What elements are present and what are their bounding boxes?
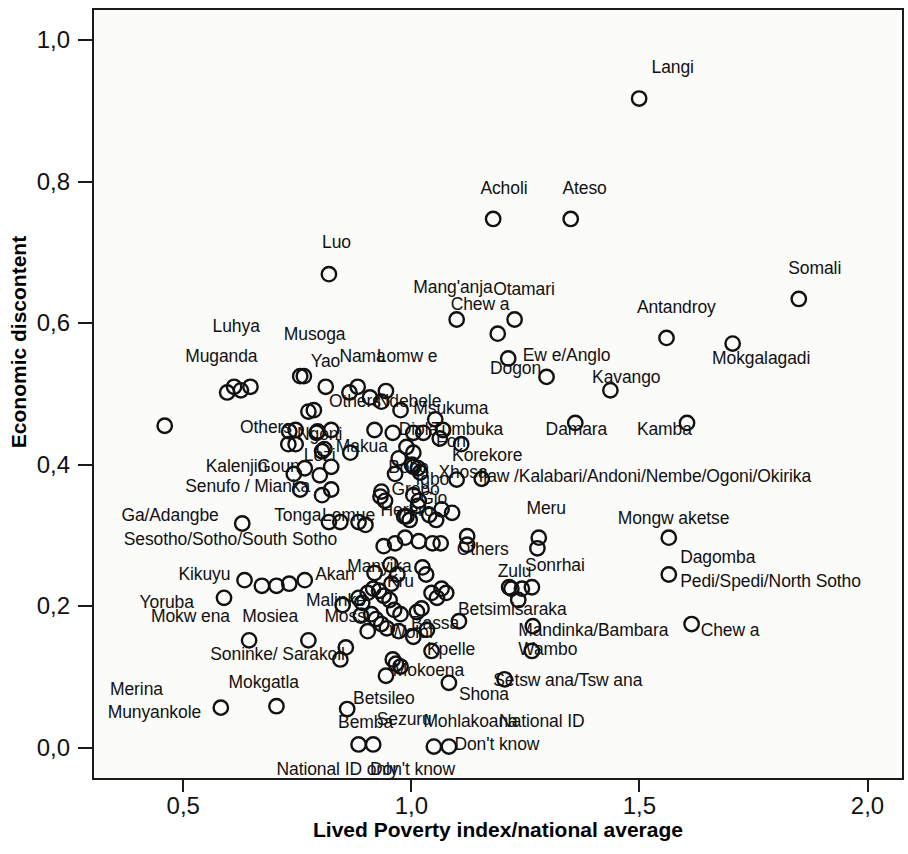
scatter-marker [486, 212, 500, 226]
scatter-marker [449, 312, 463, 326]
scatter-point-label: Senufo / Mianka [185, 478, 310, 496]
x-tick-label: 0,5 [148, 792, 218, 820]
scatter-point-label: Chew a [451, 296, 510, 314]
scatter-marker [322, 267, 336, 281]
scatter-point-label: Tonga [274, 507, 321, 525]
scatter-point-label: Mokgatla [229, 674, 299, 692]
scatter-marker [427, 739, 441, 753]
scatter-marker [351, 737, 365, 751]
scatter-point-label: Makua [336, 438, 388, 456]
scatter-point-label: Musoga [284, 326, 346, 344]
scatter-point-label: Yao [311, 353, 341, 371]
y-tick-mark [78, 39, 92, 41]
scatter-marker [361, 624, 375, 638]
y-axis-title-wrapper: Economic discontent [0, 0, 1, 1]
y-tick-label: 0,0 [8, 734, 70, 762]
scatter-point-label: Antandroy [637, 299, 716, 317]
scatter-marker [491, 326, 505, 340]
scatter-point-label: Langi [652, 59, 694, 77]
scatter-marker [564, 212, 578, 226]
x-tick-mark [410, 780, 412, 792]
y-tick-mark [78, 605, 92, 607]
y-axis-title: Economic discontent [7, 127, 31, 557]
chart-page: 0,00,20,40,60,81,0 Economic discontent L… [0, 0, 908, 854]
scatter-point-label: Soninke/ Sarakoll [210, 646, 345, 664]
scatter-point-label: Don't know [370, 761, 455, 779]
x-tick-label: 2,0 [833, 792, 903, 820]
x-tick-label: 1,0 [376, 792, 446, 820]
scatter-point-label: Meru [527, 500, 566, 518]
scatter-marker [412, 534, 426, 548]
scatter-point-label: Others [457, 541, 509, 559]
scatter-marker [313, 468, 327, 482]
scatter-point-label: Goun [257, 458, 299, 476]
scatter-point-label: Acholi [480, 180, 527, 198]
scatter-marker [539, 370, 553, 384]
y-tick-mark [78, 747, 92, 749]
scatter-marker [298, 573, 312, 587]
scatter-marker [684, 617, 698, 631]
scatter-point-label: Ijaw /Kalabari/Andoni/Nembe/Ogoni/Okirik… [479, 468, 811, 486]
scatter-marker [525, 580, 539, 594]
scatter-point-label: Pedi/Spedi/North Sotho [680, 573, 861, 591]
scatter-point-label: Kru [387, 573, 414, 591]
scatter-point-label: Kikuyu [178, 566, 230, 584]
scatter-point-label: Ateso [563, 180, 607, 198]
scatter-point-label: Munyankole [108, 704, 201, 722]
scatter-point-label: Kamba [637, 421, 692, 439]
x-tick-mark [182, 780, 184, 792]
scatter-marker [507, 312, 521, 326]
scatter-point-label: Sesotho/Sotho/South Sotho [124, 531, 338, 549]
scatter-point-label: Somali [788, 260, 841, 278]
scatter-point-label: Herero [381, 502, 434, 520]
scatter-point-label: Others [240, 419, 292, 437]
scatter-marker [532, 530, 546, 544]
scatter-markers-layer [94, 10, 904, 780]
scatter-marker [632, 91, 646, 105]
scatter-marker [255, 579, 269, 593]
scatter-point-label: Dogon [490, 360, 541, 378]
scatter-point-label: Mandinka/Bambara [518, 622, 668, 640]
x-tick-label: 1,5 [604, 792, 674, 820]
scatter-marker [659, 331, 673, 345]
scatter-point-label: Muganda [185, 348, 257, 366]
plot-area: LangiAcholiAtesoLuoSomaliMang'anjaOtamar… [92, 8, 904, 780]
scatter-point-label: Kavango [592, 369, 660, 387]
scatter-point-label: Lomw e [377, 348, 438, 366]
scatter-point-label: Betsimisaraka [458, 601, 567, 619]
scatter-point-label: Wambo [518, 641, 577, 659]
scatter-point-label: Setsw ana/Tsw ana [493, 672, 642, 690]
scatter-marker [158, 419, 172, 433]
scatter-point-label: Mongw aketse [618, 510, 730, 528]
scatter-marker [379, 669, 393, 683]
scatter-marker [792, 292, 806, 306]
scatter-point-label: Lomue [322, 507, 375, 525]
scatter-point-label: Mokw ena [151, 608, 230, 626]
scatter-point-label: Mokoena [393, 662, 464, 680]
x-tick-mark [638, 780, 640, 792]
scatter-point-label: Others [329, 393, 381, 411]
scatter-marker [243, 380, 257, 394]
scatter-point-label: Sonrhai [525, 557, 585, 575]
scatter-point-label: Diola [399, 421, 438, 439]
scatter-point-label: Chew a [701, 622, 760, 640]
scatter-point-label: Damara [546, 421, 608, 439]
scatter-point-label: National ID [499, 713, 584, 731]
scatter-point-label: Msukuma [413, 400, 488, 418]
scatter-point-label: Betsileo [353, 690, 414, 708]
y-tick-mark [78, 181, 92, 183]
y-tick-mark [78, 322, 92, 324]
scatter-point-label: Don't know [454, 736, 539, 754]
scatter-point-label: Merina [110, 681, 163, 699]
scatter-marker [217, 591, 231, 605]
scatter-point-label: Mokgalagadi [712, 350, 810, 368]
scatter-point-label: Ga/Adangbe [121, 507, 218, 525]
y-tick-label: 0,2 [8, 592, 70, 620]
scatter-point-label: Lozi [304, 447, 336, 465]
scatter-marker [662, 530, 676, 544]
scatter-marker [366, 737, 380, 751]
y-tick-mark [78, 464, 92, 466]
scatter-marker [214, 700, 228, 714]
scatter-point-label: Mosiea [242, 608, 298, 626]
x-tick-mark [867, 780, 869, 792]
